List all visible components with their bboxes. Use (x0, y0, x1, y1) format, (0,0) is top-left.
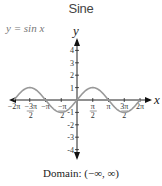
x-tick-label: −2π (8, 102, 21, 111)
y-tick-label: -4 (67, 146, 74, 155)
y-tick-label: 3 (70, 59, 74, 68)
x-tick-label-numerator: −3π (24, 102, 37, 111)
x-tick-label-denominator: 2 (91, 111, 95, 120)
x-tick-label-numerator: π (91, 102, 95, 111)
y-tick-label: -3 (67, 133, 74, 142)
y-axis-label: y (71, 23, 79, 38)
y-tick-label: -2 (67, 121, 74, 130)
sine-plot: xy4321-1-2-3-4−2π−3π2−π−π2π2π3π22π (0, 0, 162, 186)
domain-label: Domain: (−∞, ∞) (0, 167, 162, 179)
y-axis-arrow-down-icon (74, 152, 80, 160)
x-axis-arrow-right-icon (145, 97, 152, 103)
x-tick-label-denominator: 2 (29, 111, 33, 120)
x-axis-label: x (153, 92, 160, 107)
y-axis-arrow-up-icon (74, 38, 80, 46)
x-tick-label-numerator: 3π (120, 102, 128, 111)
x-tick-label-numerator: −π (58, 102, 67, 111)
x-tick-label: π (106, 102, 110, 111)
y-tick-label: 1 (70, 84, 74, 93)
y-tick-label: 2 (70, 71, 74, 80)
y-tick-label: 4 (70, 46, 74, 55)
